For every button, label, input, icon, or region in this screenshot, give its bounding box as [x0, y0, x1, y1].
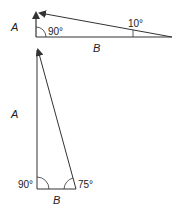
vector-triangles-diagram: A 90° 10° B A 90° 75° B	[0, 0, 184, 214]
bottom-label-b: B	[53, 194, 60, 206]
bottom-triangle: A 90° 75° B	[10, 50, 93, 206]
top-label-a: A	[10, 21, 18, 33]
top-label-10: 10°	[128, 18, 143, 29]
bottom-resultant-arrow	[38, 50, 76, 189]
bottom-75-angle-arc	[64, 178, 73, 189]
bottom-label-75: 75°	[78, 179, 93, 190]
top-label-b: B	[93, 42, 100, 54]
top-triangle: A 90° 10° B	[10, 13, 172, 54]
bottom-label-90: 90°	[18, 179, 33, 190]
bottom-right-angle-arc	[37, 177, 49, 189]
bottom-label-a: A	[10, 108, 18, 120]
top-right-angle-arc	[36, 27, 46, 37]
top-label-90: 90°	[48, 26, 63, 37]
